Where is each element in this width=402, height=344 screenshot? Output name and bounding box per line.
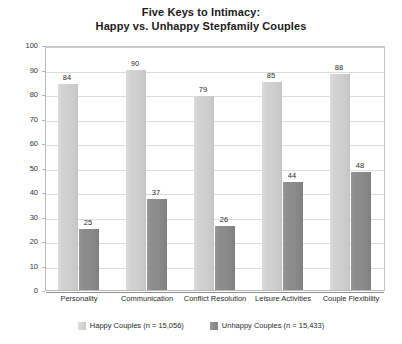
bar-value-label: 88: [335, 63, 343, 72]
y-axis-tick-label: 70: [8, 116, 38, 124]
bar-happy: 79: [194, 96, 214, 290]
bar-unhappy: 25: [79, 229, 99, 290]
bar-value-label: 84: [63, 73, 71, 82]
bar-unhappy: 26: [215, 226, 235, 290]
gridline: [46, 72, 384, 73]
legend-swatch-happy: [78, 322, 86, 330]
legend-swatch-unhappy: [210, 322, 218, 330]
bar-value-label: 79: [199, 85, 207, 94]
y-axis-tick-label: 40: [8, 189, 38, 197]
legend-item: Happy Couples (n = 15,056): [78, 321, 184, 330]
bar-happy: 84: [58, 84, 78, 290]
category-label: Communication: [121, 294, 173, 304]
bar-happy: 88: [330, 74, 350, 290]
gridline: [46, 292, 384, 293]
y-axis-tick-label: 100: [8, 42, 38, 50]
bar-unhappy: 44: [283, 182, 303, 290]
legend-label: Unhappy Couples (n = 15,433): [222, 321, 324, 330]
plot-area: 84259037792685448848: [45, 46, 385, 291]
bar-unhappy: 37: [147, 199, 167, 290]
gridline: [46, 47, 384, 48]
bar-chart-figure: Five Keys to Intimacy: Happy vs. Unhappy…: [0, 0, 402, 344]
category-label: Conflict Resolution: [184, 294, 247, 304]
bar-value-label: 44: [288, 171, 296, 180]
bar-unhappy: 48: [351, 172, 371, 290]
y-axis-tick-label: 10: [8, 263, 38, 271]
y-axis-tick-label: 30: [8, 214, 38, 222]
chart-title-line-2: Happy vs. Unhappy Stepfamily Couples: [0, 19, 402, 33]
y-axis-tick-mark: [42, 291, 45, 292]
category-label: Couple Flexibility: [323, 294, 380, 304]
bar-value-label: 26: [220, 215, 228, 224]
category-label: Personality: [60, 294, 97, 304]
chart-legend: Happy Couples (n = 15,056)Unhappy Couple…: [0, 321, 402, 330]
bar-happy: 90: [126, 70, 146, 291]
legend-item: Unhappy Couples (n = 15,433): [210, 321, 324, 330]
y-axis-tick-label: 80: [8, 91, 38, 99]
bar-value-label: 37: [152, 188, 160, 197]
y-axis-tick-label: 90: [8, 67, 38, 75]
bar-value-label: 25: [84, 218, 92, 227]
legend-label: Happy Couples (n = 15,056): [90, 321, 184, 330]
bar-value-label: 90: [131, 59, 139, 68]
bar-happy: 85: [262, 82, 282, 290]
bar-value-label: 48: [356, 161, 364, 170]
y-axis-tick-label: 60: [8, 140, 38, 148]
bar-value-label: 85: [267, 71, 275, 80]
category-label: Leisure Activities: [255, 294, 311, 304]
y-axis-tick-label: 50: [8, 165, 38, 173]
chart-title-line-1: Five Keys to Intimacy:: [0, 5, 402, 19]
y-axis-tick-label: 0: [8, 287, 38, 295]
y-axis-tick-label: 20: [8, 238, 38, 246]
chart-title: Five Keys to Intimacy: Happy vs. Unhappy…: [0, 5, 402, 33]
